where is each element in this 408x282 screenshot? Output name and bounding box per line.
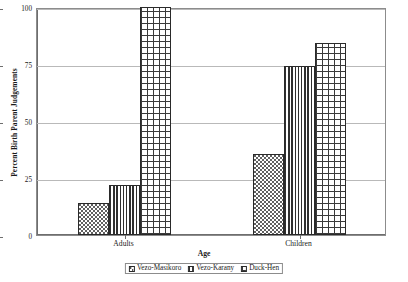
x-axis-label-children: Children	[259, 239, 339, 248]
plot-area: 0255075100	[36, 8, 386, 236]
legend-item-vezo-karany: Vezo-Karany	[188, 265, 234, 272]
y-axis-tick-label: 75	[3, 62, 37, 70]
gridline	[37, 9, 385, 10]
legend-swatch-icon	[241, 266, 247, 272]
y-axis-tick-mark	[0, 9, 3, 10]
legend-label: Vezo-Karany	[196, 265, 234, 272]
legend-item-vezo-masikoro: Vezo-Masikoro	[129, 265, 181, 272]
y-axis-tick-mark	[0, 237, 3, 238]
bar-vezo-karany-adults	[109, 185, 140, 235]
x-axis-label-adults: Adults	[84, 239, 164, 248]
y-axis-tick-mark	[0, 123, 3, 124]
bar-vezo-karany-children	[284, 66, 315, 235]
bar-chart: Percent Birth Parent Judgements 02550751…	[0, 0, 408, 282]
legend-item-duck-hen: Duck-Hen	[241, 265, 279, 272]
legend-swatch-icon	[129, 266, 135, 272]
bar-vezo-masikoro-children	[253, 154, 284, 235]
legend-label: Vezo-Masikoro	[137, 265, 181, 272]
y-axis-tick-label: 100	[3, 5, 37, 13]
bar-duck-hen-children	[315, 43, 346, 235]
y-axis-tick-label: 50	[3, 119, 37, 127]
y-axis-tick-mark	[0, 66, 3, 67]
y-axis-tick-label: 25	[3, 176, 37, 184]
x-axis-title: Age	[0, 249, 408, 258]
y-axis-tick-mark	[0, 180, 3, 181]
y-axis-tick-label: 0	[3, 233, 37, 241]
bar-duck-hen-adults	[140, 7, 171, 235]
y-axis-line	[37, 9, 38, 235]
bar-vezo-masikoro-adults	[78, 203, 109, 235]
legend-swatch-icon	[188, 266, 194, 272]
chart-legend: Vezo-MasikoroVezo-KaranyDuck-Hen	[125, 263, 283, 274]
legend-label: Duck-Hen	[249, 265, 279, 272]
